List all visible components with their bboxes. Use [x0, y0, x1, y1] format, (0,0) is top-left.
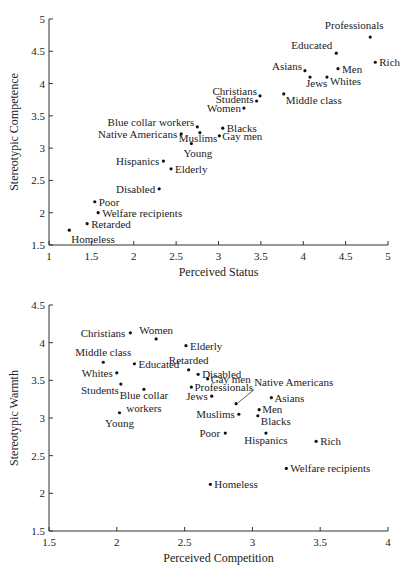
point-marker [190, 386, 193, 389]
point-marker [285, 467, 288, 470]
point-marker [86, 222, 89, 225]
data-point: Native Americans [98, 128, 183, 140]
x-axis-label: Perceived Competition [163, 551, 273, 565]
point-marker [255, 99, 258, 102]
point-label: Blacks [261, 415, 291, 427]
point-marker [325, 76, 328, 79]
x-tick-label: 3 [250, 536, 256, 548]
point-label: Middle class [286, 94, 342, 106]
y-tick-label: 4 [40, 337, 46, 349]
y-tick-label: 4.5 [31, 45, 45, 57]
data-point: Whites [82, 367, 119, 379]
point-label: Whites [330, 75, 361, 87]
point-label: Jews [306, 77, 327, 89]
point-marker [303, 69, 306, 72]
point-label: Retarded [91, 218, 131, 230]
point-label: Poor [199, 427, 220, 439]
x-tick-label: 3.5 [313, 536, 327, 548]
point-marker [162, 159, 165, 162]
y-tick-label: 2.5 [31, 450, 45, 462]
data-point: Men [258, 403, 283, 415]
point-label: Gay men [222, 130, 263, 142]
y-tick-label: 2.5 [31, 174, 45, 186]
point-marker [218, 134, 221, 137]
point-marker [102, 361, 105, 364]
competence-status-plot: 11.522.533.544.551.522.533.544.55Perceiv… [0, 0, 406, 290]
point-label: Rich [379, 56, 400, 68]
point-marker [133, 362, 136, 365]
y-tick-label: 4.5 [31, 299, 45, 311]
point-marker [158, 187, 161, 190]
x-tick-label: 1.5 [85, 250, 99, 262]
y-axis-label: Stereotypic Warmth [7, 370, 21, 466]
point-label: Hispanics [116, 155, 159, 167]
x-axis-label: Perceived Status [179, 265, 259, 279]
point-marker [206, 377, 209, 380]
x-tick-label: 4.5 [339, 250, 353, 262]
data-point: Elderly [169, 163, 207, 175]
x-tick-label: 2.5 [178, 536, 192, 548]
x-tick-label: 2 [131, 250, 137, 262]
data-point: Homeless [68, 229, 115, 246]
y-tick-label: 3 [40, 412, 46, 424]
point-label: Muslims [179, 132, 218, 144]
data-point: Blue collar workers [108, 116, 199, 129]
x-tick-label: 4 [301, 250, 307, 262]
point-label: Christians [81, 327, 126, 339]
point-label: Blue collar workers [108, 116, 195, 128]
x-tick-label: 3.5 [254, 250, 268, 262]
point-label: Rich [320, 435, 341, 447]
data-point: Women [139, 324, 173, 341]
x-tick-label: 4 [385, 536, 391, 548]
x-tick-label: 3 [216, 250, 222, 262]
point-label: Native Americans [254, 376, 333, 388]
y-tick-label: 3 [40, 142, 46, 154]
data-point: Professionals [325, 19, 384, 39]
point-marker [258, 94, 261, 97]
point-marker [237, 413, 240, 416]
point-label: Professionals [325, 19, 384, 31]
point-label: Young [105, 417, 134, 429]
point-marker [190, 142, 193, 145]
point-marker [235, 402, 238, 405]
data-point: Rich [374, 56, 401, 68]
y-tick-label: 1.5 [31, 525, 45, 537]
y-axis-label: Stereotypic Competence [7, 73, 21, 191]
point-marker [270, 396, 273, 399]
point-label: Young [183, 147, 212, 159]
y-tick-label: 3.5 [31, 110, 45, 122]
warmth-competition-plot: 1.522.533.541.522.533.544.5Perceived Com… [0, 290, 406, 574]
data-point: Students [81, 383, 123, 397]
data-point: Retarded [86, 218, 132, 230]
point-marker [256, 414, 259, 417]
data-point: Middle class [282, 92, 342, 106]
data-point: Disabled [116, 183, 161, 195]
data-point: Young [183, 142, 212, 159]
data-point: Blue collarworkers [120, 388, 169, 415]
y-tick-label: 3.5 [31, 374, 45, 386]
data-point: Hispanics [244, 431, 287, 446]
x-tick-label: 2 [114, 536, 120, 548]
point-label: Homeless [71, 233, 114, 245]
point-label: Elderly [190, 340, 223, 352]
x-tick-label: 5 [385, 250, 391, 262]
point-label: Hispanics [244, 434, 287, 446]
y-tick-label: 1.5 [31, 239, 45, 251]
point-label: Whites [82, 367, 113, 379]
data-point: Muslims [179, 131, 218, 144]
data-point: Women [207, 102, 246, 114]
data-point: Educated [291, 39, 338, 55]
point-label: Jews [186, 390, 207, 402]
data-point: Poor [199, 427, 226, 439]
point-marker [242, 107, 245, 110]
data-point: Jews [306, 76, 327, 90]
data-point: Whites [325, 75, 361, 87]
data-point: Men [336, 63, 362, 75]
point-label: Muslims [196, 408, 235, 420]
point-label: Men [342, 63, 363, 75]
y-tick-label: 2 [40, 487, 46, 499]
point-marker [155, 337, 158, 340]
data-point: Elderly [184, 340, 222, 352]
point-label: Men [262, 403, 283, 415]
data-point: Welfare recipients [285, 462, 371, 474]
